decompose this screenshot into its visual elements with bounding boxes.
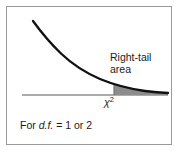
chi-square-figure: Right-tail area χ2 For d.f. = 1 or 2 — [0, 0, 180, 153]
degrees-of-freedom-caption: For d.f. = 1 or 2 — [20, 120, 92, 132]
right-tail-area-label-line1: Right-tail — [110, 51, 151, 63]
chi-square-axis-label: χ2 — [104, 97, 114, 109]
right-tail-area-label-line2: area — [110, 64, 151, 76]
chi-exponent: 2 — [110, 95, 114, 104]
caption-suffix: = 1 or 2 — [53, 119, 92, 131]
right-tail-area-label: Right-tail area — [110, 52, 151, 76]
caption-prefix: For — [20, 119, 39, 131]
caption-df-italic: d.f. — [39, 119, 54, 131]
